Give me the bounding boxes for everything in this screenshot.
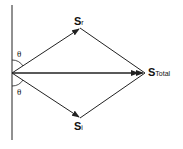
reflected-vector [12, 29, 79, 73]
total-label: STotal [148, 67, 170, 78]
reflected-to-total-line [80, 28, 145, 73]
theta-bottom-label: θ [17, 88, 21, 97]
incident-label-sub: i [81, 124, 83, 131]
bottom-angle-arc [12, 80, 23, 86]
incident-to-total-line [80, 73, 145, 118]
reflected-label: Sr [74, 16, 84, 27]
incident-label: Si [74, 121, 83, 132]
top-angle-arc [12, 60, 23, 66]
incident-vector [12, 73, 79, 117]
total-label-sub: Total [155, 70, 170, 77]
theta-top-label: θ [17, 50, 21, 59]
reflected-label-sub: r [81, 19, 83, 26]
